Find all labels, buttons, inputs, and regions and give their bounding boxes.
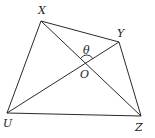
vertex-label-y: Y [117, 27, 126, 40]
angle-label-theta: θ [83, 44, 90, 57]
quadrilateral-diagram: X Y Z U O θ [0, 0, 155, 138]
diagonal-uy [7, 42, 119, 113]
vertex-label-u: U [3, 117, 13, 130]
edge-zu [7, 113, 141, 116]
vertex-label-x: X [37, 4, 47, 17]
intersection-label-o: O [80, 68, 89, 81]
diagonal-xz [41, 21, 141, 116]
edge-ux [7, 21, 41, 113]
vertex-label-z: Z [134, 121, 143, 134]
